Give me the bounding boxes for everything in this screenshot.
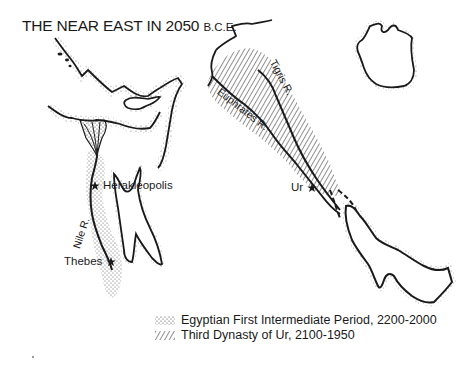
- map-legend: Egyptian First Intermediate Period, 2200…: [155, 312, 437, 342]
- hatch-pattern-icon: [155, 330, 175, 340]
- legend-item-egypt: Egyptian First Intermediate Period, 2200…: [155, 312, 437, 327]
- persian-gulf: [345, 206, 452, 303]
- map-title: THE NEAR EAST IN 2050 B.C.E.: [22, 17, 237, 35]
- stray-mark: [32, 356, 34, 358]
- ur-region: [208, 20, 342, 196]
- caspian-sea: [357, 24, 414, 88]
- legend-label-egypt: Egyptian First Intermediate Period, 2200…: [181, 313, 437, 327]
- map-title-era: B.C.E.: [203, 21, 236, 33]
- egypt-region: [86, 150, 122, 298]
- place-label-ur: Ur: [291, 181, 303, 193]
- egypt-coast-delta: [48, 106, 160, 156]
- place-label-herakleopolis: Herakleopolis: [103, 179, 173, 191]
- map-title-text: THE NEAR EAST IN 2050: [22, 17, 199, 34]
- stipple-pattern-icon: [155, 315, 175, 325]
- place-label-thebes: Thebes: [64, 255, 102, 267]
- legend-label-ur: Third Dynasty of Ur, 2100-1950: [181, 328, 355, 342]
- cyprus-island: [124, 97, 160, 110]
- legend-item-ur: Third Dynasty of Ur, 2100-1950: [155, 327, 437, 342]
- mediterranean-north-coast: [55, 38, 160, 96]
